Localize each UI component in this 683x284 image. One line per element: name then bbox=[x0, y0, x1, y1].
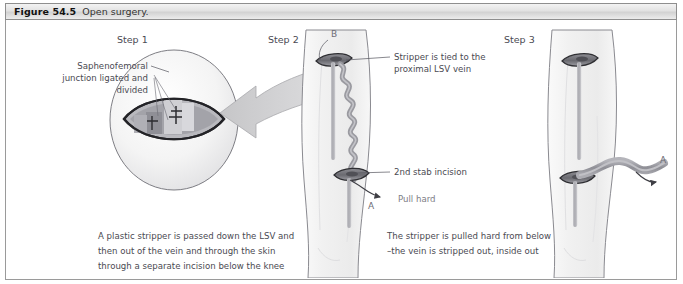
figure-header: Figure 54.5 Open surgery. bbox=[5, 3, 677, 20]
stripper-rod-step3 bbox=[577, 62, 581, 160]
step1-label: Step 1 bbox=[117, 34, 148, 45]
stab-incision-annotation: 2nd stab incision bbox=[356, 167, 467, 177]
caption-left-line-1: A plastic stripper is passed down the LS… bbox=[98, 231, 294, 241]
caption-right-line-1: The stripper is pulled hard from below bbox=[386, 231, 551, 241]
step3-label: Step 3 bbox=[504, 34, 535, 45]
caption-right-line-2: –the vein is stripped out, inside out bbox=[387, 246, 539, 256]
marker-b-label: B bbox=[331, 29, 337, 39]
step1-group: Step 1 bbox=[61, 34, 238, 190]
saphenofemoral-line-1: Saphenofemoral bbox=[77, 61, 148, 71]
saphenofemoral-line-2: junction ligated and bbox=[61, 73, 148, 83]
pull-hard-label: Pull hard bbox=[398, 194, 436, 204]
leg-outline-step3 bbox=[548, 30, 617, 278]
saphenofemoral-line-3: divided bbox=[116, 85, 148, 95]
caption-left-line-3: through a separate incision below the kn… bbox=[98, 261, 284, 271]
stripper-tied-line-2: proximal LSV vein bbox=[394, 64, 471, 74]
illustration-svg: Step 1 bbox=[6, 20, 676, 278]
figure-number: Figure 54.5 bbox=[14, 6, 76, 17]
caption-left-line-2: then out of the vein and through the ski… bbox=[98, 246, 275, 256]
stripper-tied-line-1: Stripper is tied to the bbox=[394, 52, 486, 62]
caption-left: A plastic stripper is passed down the LS… bbox=[98, 231, 294, 271]
marker-a-step3-label: A bbox=[660, 155, 667, 165]
figure-body: Step 1 bbox=[5, 20, 677, 280]
stab-incision-label: 2nd stab incision bbox=[394, 167, 467, 177]
figure-caption: Open surgery. bbox=[82, 6, 148, 17]
marker-a-step2-label: A bbox=[368, 201, 375, 211]
figure-container: Figure 54.5 Open surgery. bbox=[0, 0, 683, 284]
caption-right: The stripper is pulled hard from below –… bbox=[386, 231, 551, 256]
stripper-rod-step2 bbox=[331, 62, 335, 160]
leg-outline-step2 bbox=[302, 30, 371, 278]
step2-label: Step 2 bbox=[268, 34, 299, 45]
